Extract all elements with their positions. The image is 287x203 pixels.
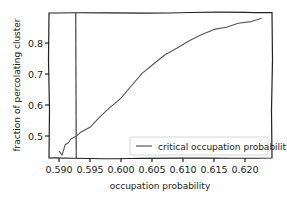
x-tick-label: 0.600 bbox=[107, 164, 134, 175]
x-tick-label: 0.610 bbox=[169, 164, 196, 175]
y-axis-ticks: 0.50.60.70.8 bbox=[28, 38, 49, 142]
x-axis-ticks: 0.5900.5950.6000.6050.6100.6150.620 bbox=[45, 158, 258, 175]
x-tick-label: 0.595 bbox=[76, 164, 103, 175]
x-tick-label: 0.615 bbox=[200, 164, 227, 175]
y-axis-label: fraction of percolating cluster bbox=[12, 18, 22, 151]
x-tick-label: 0.590 bbox=[45, 164, 72, 175]
y-tick-label: 0.7 bbox=[28, 69, 43, 80]
y-tick-label: 0.8 bbox=[28, 38, 43, 49]
x-axis-label: occupation probability bbox=[110, 181, 211, 191]
y-tick-label: 0.6 bbox=[28, 100, 43, 111]
x-tick-label: 0.620 bbox=[231, 164, 258, 175]
chart: 0.5900.5950.6000.6050.6100.6150.620 0.50… bbox=[0, 0, 287, 203]
x-tick-label: 0.605 bbox=[138, 164, 165, 175]
y-tick-label: 0.5 bbox=[28, 131, 43, 142]
legend: critical occupation probability bbox=[130, 137, 287, 155]
legend-label: critical occupation probability bbox=[158, 142, 287, 152]
data-line bbox=[59, 18, 262, 155]
